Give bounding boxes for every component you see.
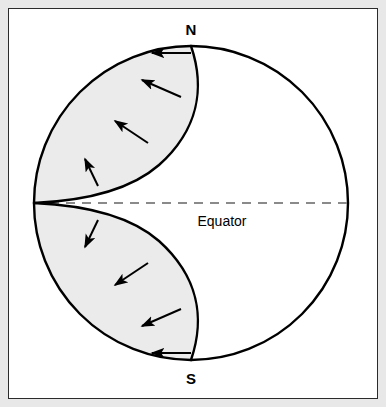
figure-root: N S Equator [0, 0, 386, 407]
equator-label: Equator [197, 213, 246, 229]
north-pole-label: N [186, 21, 197, 38]
sphere-diagram: N S Equator [9, 9, 377, 398]
figure-panel: N S Equator [8, 8, 378, 399]
south-pole-label: S [186, 370, 196, 387]
